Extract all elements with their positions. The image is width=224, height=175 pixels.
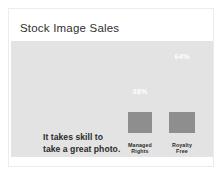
x-axis-label-line-2: Free	[161, 148, 203, 155]
x-axis-label-managed-rights: Managed Rights	[119, 142, 161, 155]
bar-managed-rights[interactable]: 38%	[128, 84, 152, 133]
bar-lower-segment	[128, 112, 152, 133]
x-axis-label-line-1: Royalty	[161, 142, 203, 149]
bar-value-label: 38%	[128, 87, 152, 96]
bar-royalty-free[interactable]: 64%	[169, 49, 195, 133]
x-axis-label-line-2: Rights	[119, 148, 161, 155]
bar-value-label: 64%	[169, 52, 195, 61]
chart-plot-area: It takes skill to take a great photo. 38…	[11, 41, 213, 157]
bar-lower-segment	[169, 112, 195, 133]
chart-card: Stock Image Sales It takes skill to take…	[8, 8, 214, 167]
page-title: Stock Image Sales	[20, 22, 119, 34]
x-axis-label-line-1: Managed	[119, 142, 161, 149]
x-axis-label-royalty-free: Royalty Free	[161, 142, 203, 155]
